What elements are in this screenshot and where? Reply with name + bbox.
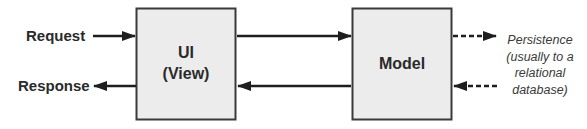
model-label: Model bbox=[352, 53, 452, 74]
persistence-line1: Persistence bbox=[495, 32, 585, 49]
persistence-note: Persistence (usually to a relational dat… bbox=[495, 32, 585, 98]
response-label: Response bbox=[18, 77, 90, 94]
persistence-line3: relational bbox=[495, 65, 585, 82]
ui-label-line2: (View) bbox=[136, 63, 236, 84]
persistence-line4: database) bbox=[495, 82, 585, 99]
ui-view-label: UI (View) bbox=[136, 42, 236, 84]
ui-label-line1: UI bbox=[136, 42, 236, 63]
request-label: Request bbox=[26, 27, 85, 44]
mvc-diagram: Request Response UI (View) Model Persist… bbox=[0, 0, 587, 129]
persistence-line2: (usually to a bbox=[495, 49, 585, 66]
